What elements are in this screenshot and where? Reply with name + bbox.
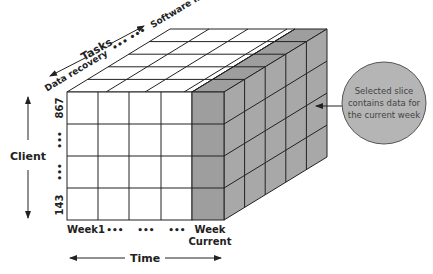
time-label-ellipsis-2: ••• <box>137 225 154 235</box>
tasks-end-label: Software minor <box>149 0 222 30</box>
time-axis: Week1 ••• ••• ••• Week Current Time <box>67 224 232 265</box>
client-top-label: 867 <box>54 98 65 119</box>
callout-line-3: the current week <box>348 110 420 120</box>
olap-cube-diagram: Tasks Data recovery ••• ••• Software min… <box>0 0 433 274</box>
cube-front-face <box>67 92 224 220</box>
callout-line-2: contains data for <box>348 98 421 108</box>
client-mid-label-2: ••• <box>55 163 65 180</box>
client-bottom-label: 143 <box>54 195 65 216</box>
client-mid-label-1: ••• <box>55 131 65 148</box>
time-label-current-line1: Week <box>195 224 226 235</box>
time-axis-title: Time <box>130 252 160 265</box>
time-label-current-line2: Current <box>188 236 231 247</box>
time-label-ellipsis-3: ••• <box>168 225 185 235</box>
client-axis-title: Client <box>10 150 46 163</box>
time-label-week1: Week1 <box>67 224 105 235</box>
client-axis: Client 867 ••• ••• 143 <box>10 97 65 218</box>
callout: Selected slice contains data for the cur… <box>316 62 426 144</box>
callout-line-1: Selected slice <box>355 86 414 96</box>
time-label-ellipsis-1: ••• <box>106 225 123 235</box>
